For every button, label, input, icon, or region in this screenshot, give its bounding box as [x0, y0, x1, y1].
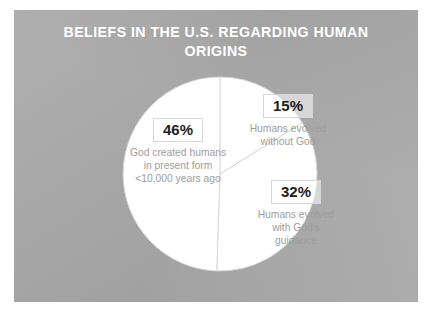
- chart-title: BELIEFS IN THE U.S. REGARDING HUMAN ORIG…: [14, 23, 418, 61]
- slice-label-evolved-with-god: 32% Humans evolved with God's guidance: [242, 180, 350, 248]
- slice-label-created-in-present-form: 46% God created humans in present form <…: [114, 118, 242, 186]
- pie-chart-figure: BELIEFS IN THE U.S. REGARDING HUMAN ORIG…: [0, 0, 433, 320]
- slice-description-evolved-without-god: Humans evolved without God: [236, 122, 340, 148]
- slice-percent-evolved-with-god: 32%: [271, 180, 321, 204]
- slice-percent-created-in-present-form: 46%: [153, 118, 203, 142]
- slice-percent-evolved-without-god: 15%: [263, 94, 313, 118]
- slice-label-evolved-without-god: 15% Humans evolved without God: [236, 94, 340, 148]
- slice-description-evolved-with-god: Humans evolved with God's guidance: [242, 208, 350, 248]
- chart-panel: BELIEFS IN THE U.S. REGARDING HUMAN ORIG…: [14, 10, 418, 302]
- slice-description-created-in-present-form: God created humans in present form <10,0…: [114, 146, 242, 186]
